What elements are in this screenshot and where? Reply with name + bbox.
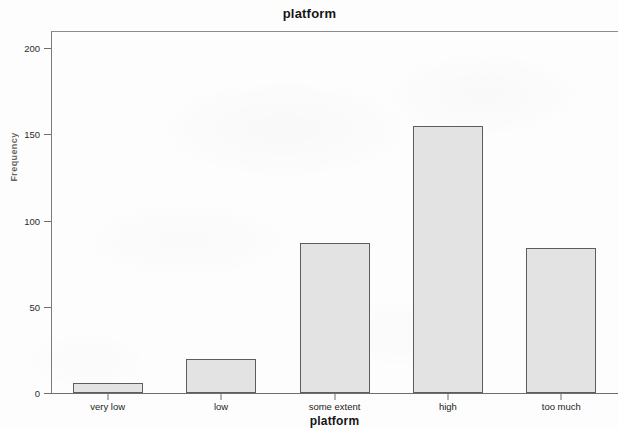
- y-axis-tick: [44, 221, 51, 222]
- bar-chart: platform Frequency 050100150200 very low…: [0, 0, 619, 429]
- chart-title: platform: [0, 6, 619, 21]
- x-axis-tick: [107, 393, 108, 400]
- bar: [413, 126, 483, 393]
- x-axis-tick-label: some extent: [275, 401, 395, 412]
- y-axis-tick-label: 200: [0, 43, 40, 54]
- x-axis-tick: [334, 393, 335, 400]
- bar: [300, 243, 370, 393]
- x-axis-tick-label: high: [388, 401, 508, 412]
- y-axis-title: Frequency: [9, 107, 19, 207]
- y-axis-tick-label: 100: [0, 215, 40, 226]
- bar: [186, 359, 256, 393]
- x-axis-tick: [561, 393, 562, 400]
- x-axis-tick: [447, 393, 448, 400]
- x-axis-tick-label: low: [161, 401, 281, 412]
- y-axis-tick: [44, 393, 51, 394]
- y-axis-tick: [44, 307, 51, 308]
- x-axis-tick-label: very low: [48, 401, 168, 412]
- y-axis-tick-label: 0: [0, 388, 40, 399]
- x-axis-tick-label: too much: [501, 401, 619, 412]
- y-axis-tick: [44, 134, 51, 135]
- x-axis-title: platform: [51, 414, 618, 428]
- bar: [526, 248, 596, 393]
- bar: [73, 383, 143, 393]
- y-axis-tick: [44, 48, 51, 49]
- y-axis-tick-label: 50: [0, 301, 40, 312]
- x-axis-tick: [221, 393, 222, 400]
- y-axis-tick-label: 150: [0, 129, 40, 140]
